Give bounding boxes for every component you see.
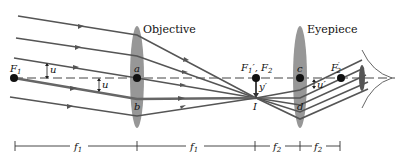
angle-u-top — [45, 63, 49, 79]
I-label: I — [252, 101, 258, 112]
d-label: d — [297, 101, 303, 112]
c-label: c — [297, 63, 303, 74]
eyepiece-rays — [256, 60, 368, 119]
F2prime-label: F′2 — [330, 61, 342, 75]
u-bottom-label: u — [102, 79, 108, 90]
focal-point-F2prime — [337, 74, 345, 82]
angle-u-bottom — [97, 78, 101, 92]
b-label: b — [134, 101, 140, 112]
eyepiece-label: Eyepiece — [307, 23, 358, 36]
dimension-line — [15, 141, 340, 151]
dim-f1-first: f1 — [73, 141, 82, 154]
telescope-ray-diagram: Objective Eyepiece F1 u u a b F1′, F2 y′… — [0, 0, 405, 165]
point-c — [296, 74, 304, 82]
dim-f2-second: f2 — [313, 141, 323, 154]
F1-label: F1 — [9, 63, 21, 76]
F1prime-F2-label: F1′, F2 — [240, 62, 273, 75]
point-a — [133, 74, 141, 82]
a-label: a — [134, 63, 140, 74]
objective-label: Objective — [143, 23, 196, 36]
dim-f1-second: f1 — [189, 141, 198, 154]
dim-f2-first: f2 — [272, 141, 282, 154]
eye-icon — [359, 50, 392, 108]
u-top-label: u — [50, 64, 56, 75]
y-prime-label: y′ — [258, 81, 268, 92]
u-prime-label: u′ — [317, 79, 326, 90]
